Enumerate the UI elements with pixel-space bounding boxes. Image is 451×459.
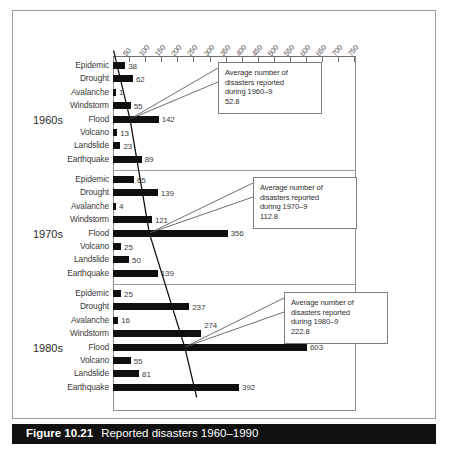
bar (113, 142, 120, 149)
bar-value-label: 81 (142, 370, 151, 379)
bar-value-label: 392 (242, 383, 255, 392)
bar-value-label: 121 (155, 216, 168, 225)
bar (113, 270, 158, 277)
figure-page: 5010015020025030035040045050055060065070… (0, 0, 451, 459)
axis-tick (338, 56, 339, 62)
annotation-line: 222.8 (291, 327, 381, 337)
annotation-callout: Average number ofdisasters reporteddurin… (284, 292, 388, 344)
bar (113, 156, 142, 163)
bar (113, 102, 131, 109)
axis-tick (354, 56, 355, 62)
annotation-line: during 1960–9 (225, 87, 315, 97)
bar-value-label: 274 (204, 321, 217, 330)
bar-value-label: 4 (119, 202, 123, 211)
annotation-line: disasters reported (260, 193, 350, 203)
bar (113, 290, 121, 297)
bar (113, 62, 125, 69)
axis-tick (177, 56, 178, 62)
annotation-line: 52.8 (225, 97, 315, 107)
bar-value-label: 139 (161, 269, 174, 278)
figure-title: Reported disasters 1960–1990 (101, 427, 258, 439)
annotation-line: disasters reported (225, 78, 315, 88)
bar-value-label: 89 (145, 155, 154, 164)
annotation-line: Average number of (260, 183, 350, 193)
bar-value-label: 25 (124, 290, 133, 299)
annotation-line: Average number of (291, 298, 381, 308)
bar (113, 330, 201, 337)
bar-value-label: 55 (134, 102, 143, 111)
bar-value-label: 62 (136, 75, 145, 84)
bar-value-label: 139 (161, 189, 174, 198)
group-separator (113, 284, 356, 285)
axis-tick (145, 56, 146, 62)
bar (113, 189, 158, 196)
annotation-callout: Average number ofdisasters reporteddurin… (218, 62, 322, 114)
group-separator (113, 170, 356, 171)
figure-caption-bar: Figure 10.21Reported disasters 1960–1990 (12, 424, 436, 444)
bar (113, 203, 116, 210)
bar-value-label: 38 (128, 62, 137, 71)
decade-label: 1970s (33, 228, 63, 240)
bar (113, 370, 139, 377)
decade-label: 1980s (33, 342, 63, 354)
annotation-line: during 1980–9 (291, 317, 381, 327)
bar (113, 344, 307, 351)
annotation-line: disasters reported (291, 308, 381, 318)
bar (113, 357, 131, 364)
bar (113, 317, 118, 324)
bar-value-label: 142 (162, 115, 175, 124)
figure-caption: Figure 10.21Reported disasters 1960–1990 (26, 427, 258, 439)
bar (113, 230, 228, 237)
bar (113, 116, 159, 123)
annotation-line: 112.8 (260, 212, 350, 222)
bar-value-label: 356 (231, 229, 244, 238)
bar-value-label: 55 (134, 357, 143, 366)
axis-tick (193, 56, 194, 62)
annotation-line: Average number of (225, 68, 315, 78)
bar (113, 384, 239, 391)
bar-value-label: 1 (119, 88, 123, 97)
decade-label: 1960s (33, 114, 63, 126)
bar (113, 75, 133, 82)
annotation-callout: Average number ofdisasters reporteddurin… (253, 177, 357, 229)
bar (113, 176, 134, 183)
annotation-line: during 1970–9 (260, 202, 350, 212)
bar (113, 216, 152, 223)
bar-value-label: 25 (124, 243, 133, 252)
bar-value-label: 237 (192, 303, 205, 312)
bar-value-label: 65 (137, 176, 146, 185)
axis-tick (322, 56, 323, 62)
bar (113, 256, 129, 263)
bar-value-label: 13 (120, 129, 129, 138)
bar-value-label: 50 (132, 256, 141, 265)
bar (113, 129, 117, 136)
bar (113, 89, 116, 96)
bar-value-label: 603 (310, 343, 323, 352)
figure-number: Figure 10.21 (26, 427, 93, 439)
bar-value-label: 23 (123, 142, 132, 151)
bar (113, 303, 189, 310)
bar (113, 243, 121, 250)
bar-value-label: 16 (121, 316, 130, 325)
axis-tick (161, 56, 162, 62)
